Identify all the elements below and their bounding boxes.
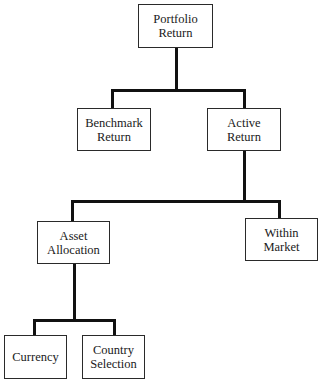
node-portfolio-return: Portfolio Return (138, 4, 213, 48)
node-label-line1: Asset (60, 229, 88, 243)
connector-level2-horizontal (71, 200, 281, 203)
node-label-line1: Within (264, 226, 298, 240)
connector-asset-down (73, 263, 76, 322)
node-benchmark-return: Benchmark Return (77, 108, 151, 151)
node-label-line2: Return (97, 130, 131, 144)
node-asset-allocation: Asset Allocation (37, 221, 110, 264)
node-label-line2: Return (158, 26, 192, 40)
connector-to-currency (33, 319, 36, 336)
node-label-line2: Return (227, 130, 261, 144)
connector-active-down (243, 150, 246, 203)
node-within-market: Within Market (245, 218, 318, 261)
connector-to-within-market (278, 200, 281, 219)
node-label-line1: Currency (12, 350, 59, 364)
node-label-line1: Active (227, 116, 260, 130)
connector-to-active (243, 89, 246, 109)
node-label-line1: Benchmark (85, 116, 143, 130)
node-label-line1: Country (93, 343, 134, 357)
node-country-selection: Country Selection (82, 335, 145, 379)
connector-to-benchmark (111, 89, 114, 109)
node-label-line2: Allocation (47, 243, 100, 257)
node-label-line1: Portfolio (153, 12, 197, 26)
connector-to-asset-allocation (71, 200, 74, 222)
node-label-line2: Market (263, 240, 299, 254)
connector-to-country-selection (113, 319, 116, 336)
node-active-return: Active Return (207, 108, 281, 151)
connector-level3-horizontal (33, 319, 116, 322)
node-label-line2: Selection (90, 357, 137, 371)
connector-level1-horizontal (111, 89, 246, 92)
node-currency: Currency (4, 335, 67, 379)
connector-portfolio-down (175, 47, 178, 92)
